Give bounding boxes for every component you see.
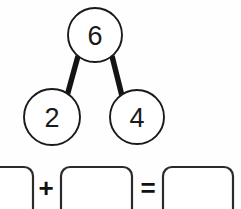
addend-1-box[interactable]: [0, 167, 33, 209]
plus-icon: +: [38, 173, 53, 203]
addend-2-box[interactable]: [61, 167, 132, 209]
sum-box[interactable]: [163, 167, 233, 209]
worksheet-canvas: 6 2 4 + =: [0, 0, 241, 209]
equals-icon: =: [140, 173, 155, 203]
equation-row: + =: [0, 0, 241, 209]
